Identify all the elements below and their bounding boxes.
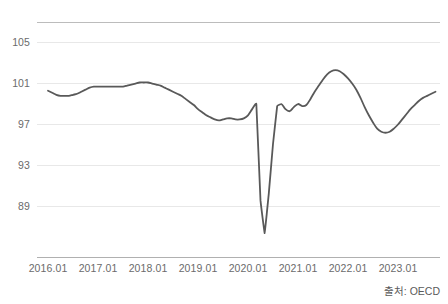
oecd-line-chart: 105 101 97 93 89 2016.01 2017.01 2018.01… xyxy=(0,0,448,304)
x-tick-label-2017: 2017.01 xyxy=(79,262,118,274)
x-tick-label-2016: 2016.01 xyxy=(29,262,68,274)
x-tick-label-2021: 2021.01 xyxy=(279,262,318,274)
x-tick-label-2023: 2023.01 xyxy=(379,262,418,274)
x-tick-label-2020: 2020.01 xyxy=(229,262,268,274)
x-tick-label-2018: 2018.01 xyxy=(129,262,168,274)
x-tick-label-2022: 2022.01 xyxy=(329,262,368,274)
source-note: 출처: OECD xyxy=(384,283,440,298)
x-tick-label-2019: 2019.01 xyxy=(179,262,218,274)
x-axis-labels: 2016.01 2017.01 2018.01 2019.01 2020.01 … xyxy=(0,0,448,304)
